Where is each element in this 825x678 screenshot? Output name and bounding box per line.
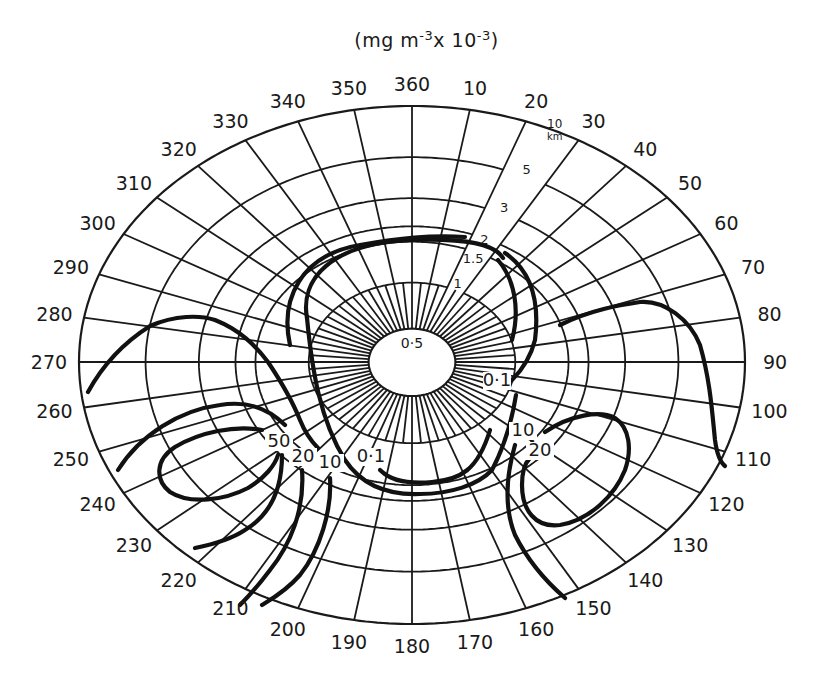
azimuth-label: 140 xyxy=(627,569,663,591)
azimuth-label: 170 xyxy=(457,631,493,653)
azimuth-label: 290 xyxy=(53,256,89,278)
azimuth-label: 90 xyxy=(763,351,787,373)
polar-contour-chart: 11.523510km 3601020304050607080901001101… xyxy=(0,0,825,678)
azimuth-label: 360 xyxy=(394,73,430,95)
spoke xyxy=(445,197,667,340)
azimuth-label: 50 xyxy=(678,172,702,194)
azimuth-label: 300 xyxy=(79,212,115,234)
concentration-contours xyxy=(88,236,725,605)
azimuth-label: 190 xyxy=(331,631,367,653)
azimuth-label: 210 xyxy=(212,597,248,619)
azimuth-label: 120 xyxy=(708,493,744,515)
azimuth-label: 160 xyxy=(518,618,554,640)
azimuth-label: 260 xyxy=(36,400,72,422)
azimuth-label: 40 xyxy=(633,138,657,160)
azimuth-label: 240 xyxy=(79,493,115,515)
azimuth-label: 340 xyxy=(270,90,306,112)
azimuth-label: 60 xyxy=(714,212,738,234)
spoke xyxy=(416,283,421,329)
polar-grid xyxy=(79,106,745,624)
spoke xyxy=(403,283,408,329)
azimuth-label: 280 xyxy=(36,303,72,325)
azimuth-label: 350 xyxy=(331,77,367,99)
contour-label: 20 xyxy=(292,445,315,466)
azimuth-label: 320 xyxy=(161,138,197,160)
range-ring-label: 3 xyxy=(500,200,508,215)
azimuth-label: 220 xyxy=(161,569,197,591)
contour-label: 0·5 xyxy=(401,335,423,351)
spoke xyxy=(416,396,421,443)
contour-label: 0·1 xyxy=(483,369,512,390)
spoke xyxy=(403,396,408,443)
contour-label: 10 xyxy=(319,451,342,472)
azimuth-label: 130 xyxy=(672,534,708,556)
contour-label: 50 xyxy=(268,430,291,451)
azimuth-label: 270 xyxy=(31,351,67,373)
azimuth-label: 230 xyxy=(116,534,152,556)
azimuth-label: 330 xyxy=(212,110,248,132)
azimuth-label: 80 xyxy=(757,303,781,325)
range-ring-label: 2 xyxy=(480,232,488,247)
range-ring-label: 10 xyxy=(547,117,562,131)
range-ring-label: 1.5 xyxy=(463,251,484,266)
contour-label: 0·1 xyxy=(357,445,386,466)
range-ring-label: 1 xyxy=(453,276,461,291)
azimuth-label: 30 xyxy=(581,110,605,132)
spoke xyxy=(157,197,379,340)
azimuth-label: 20 xyxy=(524,90,548,112)
azimuth-label: 250 xyxy=(53,448,89,470)
azimuth-label: 110 xyxy=(735,448,771,470)
contour-label: 20 xyxy=(529,439,552,460)
range-ring-label: 5 xyxy=(522,162,530,177)
azimuth-label: 70 xyxy=(741,256,765,278)
azimuth-label: 310 xyxy=(116,172,152,194)
azimuth-label: 100 xyxy=(751,400,787,422)
azimuth-label: 10 xyxy=(463,77,487,99)
contour-line xyxy=(88,317,318,448)
contour-label: 10 xyxy=(512,419,535,440)
azimuth-label: 200 xyxy=(270,618,306,640)
azimuth-label: 180 xyxy=(394,635,430,657)
range-unit-label: km xyxy=(547,131,563,142)
azimuth-label: 150 xyxy=(575,597,611,619)
